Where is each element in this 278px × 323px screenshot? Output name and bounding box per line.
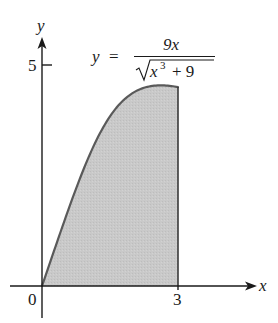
equation-annotation: y = 9x x 3 + 9	[90, 35, 215, 81]
x-axis-label: x	[258, 276, 267, 295]
y-tick-label-5: 5	[28, 56, 37, 75]
x-tick-label-0: 0	[28, 290, 37, 309]
function-area-chart: y 5 x 0 3 y = 9x x 3 + 9	[0, 0, 278, 323]
equation-equals: =	[109, 47, 119, 66]
x-tick-label-3: 3	[173, 290, 182, 309]
equation-denominator-base: x	[149, 62, 158, 81]
equation-denominator-rest: + 9	[172, 62, 194, 81]
equation-denominator-exponent: 3	[160, 59, 166, 71]
equation-numerator: 9x	[163, 35, 180, 54]
y-axis-label: y	[35, 16, 45, 35]
equation-lhs: y	[90, 47, 100, 66]
